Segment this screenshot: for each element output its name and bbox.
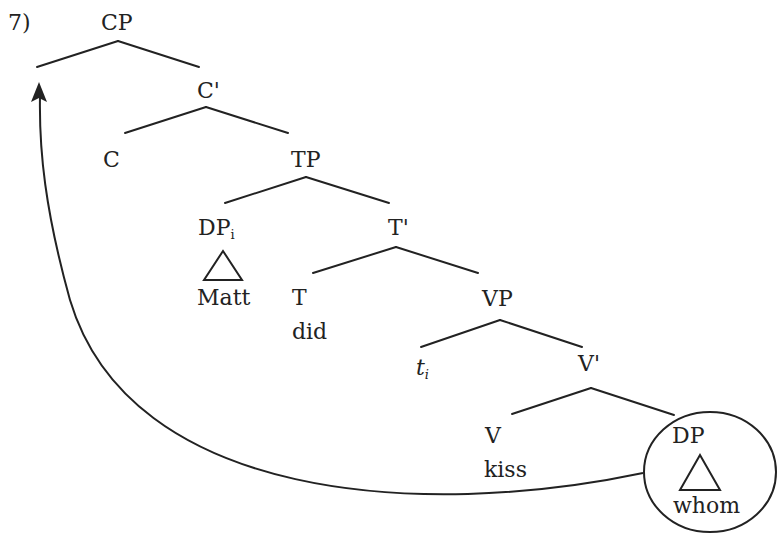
- node-c: C: [103, 149, 120, 171]
- node-dp-object: DP: [672, 425, 704, 447]
- node-trace: ti: [416, 357, 429, 381]
- syntax-tree-diagram: 7) CP C' C TP DPi Matt T' T did VP ti V'…: [0, 0, 784, 544]
- node-trace-label: t: [416, 355, 425, 380]
- leaf-whom: whom: [673, 495, 740, 517]
- leaf-kiss: kiss: [484, 459, 527, 481]
- branch-tp-tbar: [306, 177, 389, 203]
- node-c-bar: C': [197, 80, 220, 102]
- branch-cp-cbar: [118, 41, 199, 67]
- node-dp-subject-label: DP: [198, 215, 230, 240]
- triangle-icon: [680, 455, 720, 490]
- branch-tbar-t: [313, 247, 396, 273]
- node-v-bar: V': [578, 353, 600, 375]
- branch-cp-spec: [37, 41, 118, 67]
- node-cp: CP: [101, 12, 133, 34]
- leaf-did: did: [292, 321, 327, 343]
- example-number: 7): [8, 12, 31, 34]
- node-dp-subject-index: i: [230, 227, 234, 242]
- branch-cbar-c: [125, 107, 206, 133]
- branch-vbar-dp: [591, 388, 674, 415]
- branch-tp-dp: [225, 177, 306, 203]
- node-t-bar: T': [388, 217, 409, 239]
- node-vp: VP: [482, 288, 513, 310]
- tree-branches: [0, 0, 784, 544]
- node-dp-subject: DPi: [198, 217, 235, 241]
- branch-vp-trace: [421, 320, 500, 347]
- node-trace-index: i: [425, 367, 429, 382]
- movement-arrow-path: [40, 96, 643, 494]
- branch-cbar-tp: [206, 107, 288, 133]
- branch-vbar-v: [512, 388, 591, 414]
- branch-vp-vbar: [500, 320, 582, 347]
- leaf-matt: Matt: [197, 287, 250, 309]
- node-v: V: [485, 425, 501, 447]
- branch-tbar-vp: [396, 247, 478, 273]
- node-tp: TP: [291, 149, 320, 171]
- node-t: T: [292, 287, 307, 309]
- triangle-icon: [204, 251, 242, 280]
